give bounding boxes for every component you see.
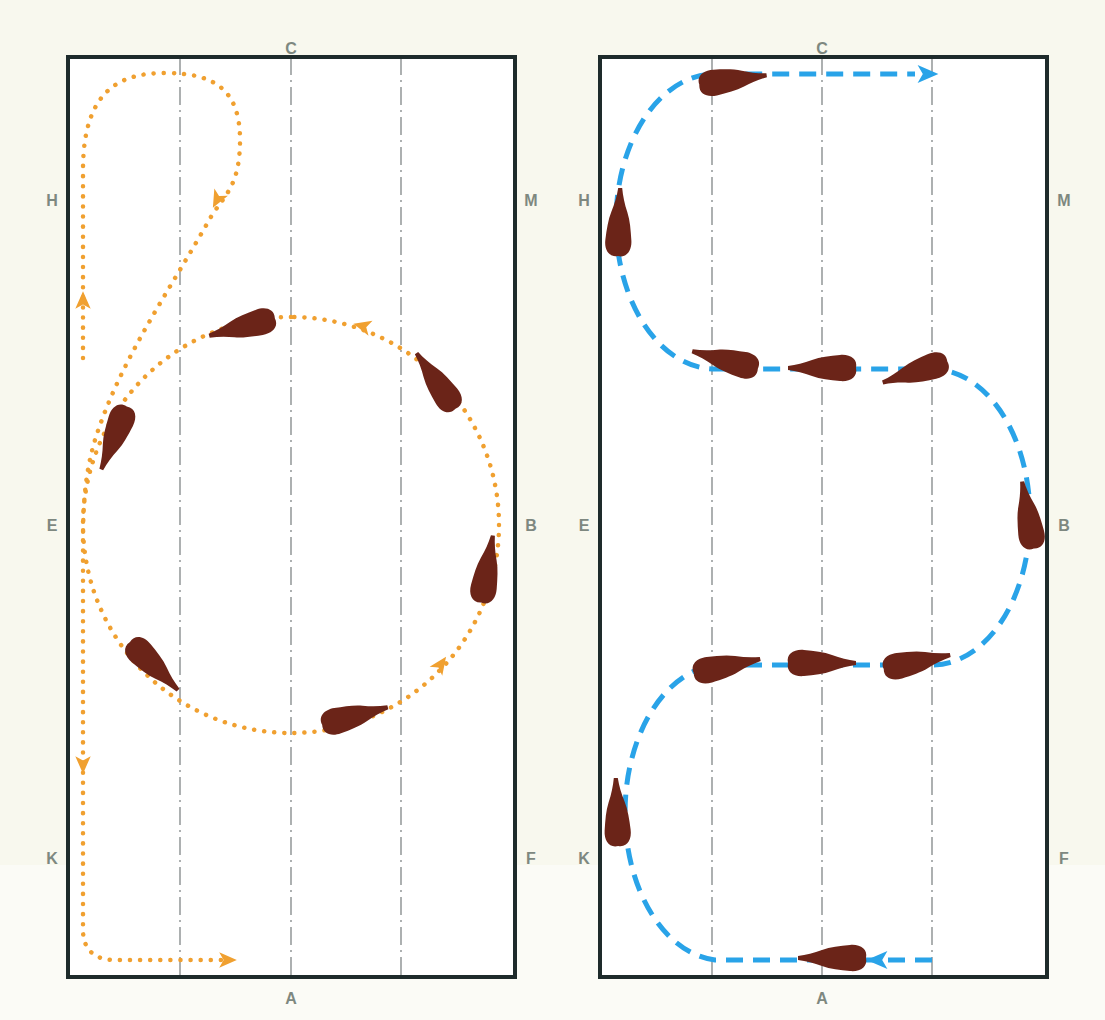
arena-marker-c: C xyxy=(285,40,297,57)
arena-marker-m: M xyxy=(1057,192,1070,209)
left-arena: CAHEKMBF xyxy=(46,40,537,1007)
arena-marker-b: B xyxy=(1058,517,1070,534)
arena-marker-a: A xyxy=(816,990,828,1007)
arena-diagrams: CAHEKMBF CAHEKMBF xyxy=(0,0,1105,1020)
arena-marker-c: C xyxy=(816,40,828,57)
arena-marker-k: K xyxy=(578,850,590,867)
arena-marker-h: H xyxy=(578,192,590,209)
arena-marker-e: E xyxy=(47,517,58,534)
arena-marker-b: B xyxy=(525,517,537,534)
arena-marker-m: M xyxy=(524,192,537,209)
arena-surface xyxy=(600,57,1047,977)
arena-marker-a: A xyxy=(285,990,297,1007)
arena-marker-e: E xyxy=(579,517,590,534)
arena-marker-h: H xyxy=(46,192,58,209)
right-arena: CAHEKMBF xyxy=(578,40,1070,1007)
arena-marker-k: K xyxy=(46,850,58,867)
arena-marker-f: F xyxy=(1059,850,1069,867)
arena-marker-f: F xyxy=(526,850,536,867)
